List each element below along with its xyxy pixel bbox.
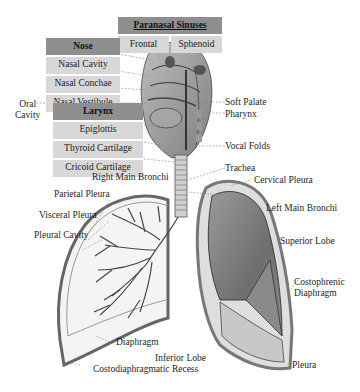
nose-nasal-cavity: Nasal Cavity bbox=[46, 55, 120, 74]
label-pharynx: Pharynx bbox=[225, 109, 257, 120]
label-pleura: Pleura bbox=[292, 360, 316, 371]
label-costodiaphragmatic-recess: Costodiaphragmatic Recess bbox=[93, 364, 198, 375]
label-superior-lobe: Superior Lobe bbox=[280, 236, 335, 247]
label-oral-cavity: Oral Cavity bbox=[15, 99, 40, 121]
label-oral-line1: Oral bbox=[15, 99, 40, 110]
label-soft-palate: Soft Palate bbox=[225, 97, 266, 108]
sinus-sphenoid: Sphenoid bbox=[171, 34, 222, 53]
label-trachea: Trachea bbox=[225, 163, 255, 174]
label-costophrenic-line1: Costophrenic bbox=[294, 277, 345, 288]
nose-table: Nose Nasal Cavity Nasal Conchae Nasal Ve… bbox=[46, 38, 120, 112]
label-vocal-folds: Vocal Folds bbox=[225, 141, 270, 152]
label-diaphragm: Diaphragm bbox=[116, 337, 159, 348]
sinus-frontal: Frontal bbox=[118, 34, 169, 53]
label-pleural-cavity: Pleural Cavity bbox=[34, 230, 89, 241]
label-right-main-bronchi: Right Main Bronchi bbox=[92, 172, 169, 183]
label-left-main-bronchi: Left Main Bronchi bbox=[266, 203, 337, 214]
paranasal-sinuses-table: Paranasal Sinuses Frontal Sphenoid bbox=[118, 17, 222, 53]
label-costophrenic-line2: Diaphragm bbox=[294, 288, 345, 299]
nose-header: Nose bbox=[46, 38, 120, 55]
head-section bbox=[141, 42, 212, 158]
label-visceral-pleura: Visceral Pleura bbox=[39, 210, 97, 221]
larynx-epiglottis: Epiglottis bbox=[53, 120, 143, 139]
respiratory-diagram: Paranasal Sinuses Frontal Sphenoid Nose … bbox=[0, 0, 360, 392]
label-costophrenic-diaphragm: Costophrenic Diaphragm bbox=[294, 277, 345, 299]
larynx-table: Larynx Epiglottis Thyroid Cartilage Cric… bbox=[53, 103, 143, 177]
paranasal-sinuses-header: Paranasal Sinuses bbox=[118, 17, 222, 34]
label-cervical-pleura: Cervical Pleura bbox=[254, 175, 313, 186]
nose-nasal-conchae: Nasal Conchae bbox=[46, 74, 120, 93]
label-inferior-lobe: Inferior Lobe bbox=[155, 353, 206, 364]
trachea-shape bbox=[175, 155, 187, 217]
larynx-thyroid-cartilage: Thyroid Cartilage bbox=[53, 139, 143, 158]
larynx-header: Larynx bbox=[53, 103, 143, 120]
label-oral-line2: Cavity bbox=[15, 110, 40, 121]
label-parietal-pleura: Parietal Pleura bbox=[54, 189, 110, 200]
